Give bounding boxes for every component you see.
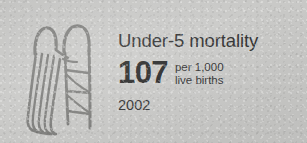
indicator-unit-line-1: per 1,000 xyxy=(175,61,224,74)
stat-text-block: Under-5 mortality 107 per 1,000 live bir… xyxy=(118,30,304,114)
indicator-value: 107 xyxy=(118,57,168,88)
indicator-figure-row: 107 per 1,000 live births xyxy=(118,57,304,88)
playground-slide-illustration xyxy=(16,18,112,140)
indicator-title: Under-5 mortality xyxy=(118,30,304,52)
indicator-unit-line-2: live births xyxy=(175,74,224,87)
indicator-unit: per 1,000 live births xyxy=(175,61,224,86)
indicator-year: 2002 xyxy=(118,97,304,114)
under-5-mortality-stat-card: Under-5 mortality 107 per 1,000 live bir… xyxy=(0,0,307,143)
